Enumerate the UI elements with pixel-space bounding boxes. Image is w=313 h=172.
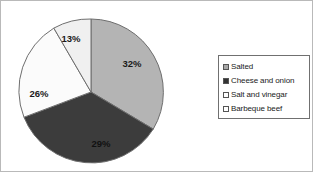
legend-label-cheese-and-onion: Cheese and onion (231, 76, 294, 86)
legend-item-barbeque-beef[interactable]: Barbeque beef (223, 102, 306, 116)
pie-label-salted: 32% (122, 58, 142, 69)
legend-label-salt-and-vinegar: Salt and vinegar (231, 90, 287, 100)
pie-label-salt-and-vinegar: 26% (29, 88, 49, 99)
legend-swatch-icon-salted (223, 64, 229, 70)
legend-item-cheese-and-onion[interactable]: Cheese and onion (223, 74, 306, 88)
pie-chart-svg: 32% 29% 26% 13% (1, 1, 206, 172)
pie-label-cheese-and-onion: 29% (91, 138, 111, 149)
legend-label-salted: Salted (231, 62, 253, 72)
pie-chart-figure: 32% 29% 26% 13% (1, 1, 206, 172)
legend-swatch-icon-barbeque-beef (223, 106, 229, 112)
chart-screenshot: 32% 29% 26% 13% Salted Cheese and onion … (0, 0, 313, 172)
legend-item-salted[interactable]: Salted (223, 60, 306, 74)
pie-label-barbeque-beef: 13% (61, 33, 81, 44)
legend-item-salt-and-vinegar[interactable]: Salt and vinegar (223, 88, 306, 102)
legend-label-barbeque-beef: Barbeque beef (231, 104, 282, 114)
legend-swatch-icon-salt-and-vinegar (223, 92, 229, 98)
legend-swatch-icon-cheese-and-onion (223, 78, 229, 84)
chart-legend: Salted Cheese and onion Salt and vinegar… (218, 55, 310, 119)
